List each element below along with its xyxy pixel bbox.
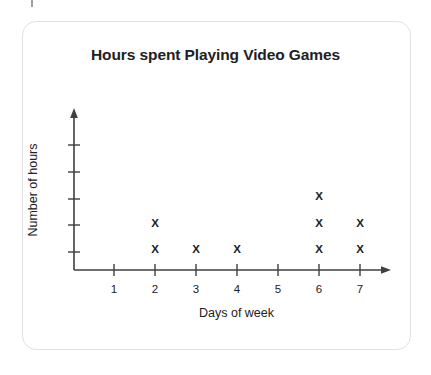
data-mark-x: X (311, 217, 327, 229)
data-mark-x: X (352, 217, 368, 229)
data-mark-x: X (352, 243, 368, 255)
chart-title: Hours spent Playing Video Games (0, 46, 431, 64)
x-tick-label-2: 2 (145, 283, 165, 295)
x-tick-label-1: 1 (104, 283, 124, 295)
data-mark-x: X (311, 190, 327, 202)
x-tick-label-7: 7 (350, 283, 370, 295)
data-mark-x: X (229, 243, 245, 255)
data-mark-x: X (147, 217, 163, 229)
x-axis-label: Days of week (114, 306, 359, 320)
data-mark-x: X (188, 243, 204, 255)
data-mark-x: X (147, 243, 163, 255)
x-tick-label-3: 3 (186, 283, 206, 295)
x-tick-label-5: 5 (268, 283, 288, 295)
chart-card (22, 21, 411, 350)
x-tick-label-6: 6 (309, 283, 329, 295)
page-edge-artifact (31, 0, 33, 7)
x-tick-label-4: 4 (227, 283, 247, 295)
data-mark-x: X (311, 243, 327, 255)
y-axis-label: Number of hours (26, 130, 40, 250)
